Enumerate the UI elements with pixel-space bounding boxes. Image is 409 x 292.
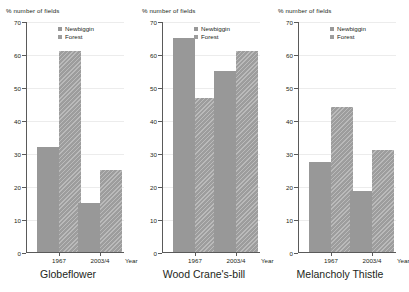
y-axis-line xyxy=(298,22,299,253)
y-tick-label: 30 xyxy=(14,151,21,158)
y-tick-label: 70 xyxy=(286,19,293,26)
y-tick-mark xyxy=(158,220,162,221)
y-tick-mark xyxy=(22,253,26,254)
y-tick-mark xyxy=(158,22,162,23)
y-tick-label: 70 xyxy=(150,19,157,26)
y-tick-mark xyxy=(294,55,298,56)
gridline xyxy=(299,22,396,23)
y-tick-label: 50 xyxy=(286,85,293,92)
legend-item: Forest xyxy=(58,34,94,40)
y-tick-mark xyxy=(294,154,298,155)
y-tick-mark xyxy=(158,154,162,155)
legend: NewbigginForest xyxy=(330,26,366,40)
legend: NewbigginForest xyxy=(58,26,94,40)
y-tick-mark xyxy=(22,88,26,89)
legend-label: Newbiggin xyxy=(337,26,366,32)
y-tick-mark xyxy=(294,187,298,188)
legend-label: Newbiggin xyxy=(65,26,94,32)
y-tick-mark xyxy=(158,88,162,89)
y-axis-title: % number of fields xyxy=(6,7,59,14)
bar xyxy=(214,71,236,253)
y-tick-mark xyxy=(22,22,26,23)
plot-area: 706050403020100 19672003/4 Year xyxy=(162,22,260,253)
y-tick-mark xyxy=(22,187,26,188)
y-tick-label: 50 xyxy=(150,85,157,92)
y-tick-mark xyxy=(294,22,298,23)
panel-title: Globeflower xyxy=(0,268,136,280)
bar xyxy=(350,191,372,252)
x-axis-line xyxy=(298,252,396,253)
bar xyxy=(173,38,195,253)
y-tick-label: 40 xyxy=(14,118,21,125)
chart-panel-wood-cranes-bill: % number of fields 706050403020100 19672… xyxy=(136,0,272,292)
x-tick-mark xyxy=(331,253,332,256)
panel-title: Wood Crane's-bill xyxy=(136,268,272,280)
y-axis-title: % number of fields xyxy=(278,7,331,14)
chart-panel-globeflower: % number of fields 706050403020100 19672… xyxy=(0,0,136,292)
legend-item: Newbiggin xyxy=(58,26,94,32)
x-tick-label: 2003/4 xyxy=(91,257,110,264)
gridline xyxy=(163,22,260,23)
legend-item: Forest xyxy=(194,34,230,40)
y-tick-label: 0 xyxy=(290,250,293,257)
x-tick-mark xyxy=(372,253,373,256)
y-tick-label: 30 xyxy=(150,151,157,158)
y-tick-label: 70 xyxy=(14,19,21,26)
x-tick-mark xyxy=(236,253,237,256)
x-axis-line xyxy=(162,252,260,253)
x-tick-label: 1967 xyxy=(324,257,338,264)
y-tick-label: 60 xyxy=(14,52,21,59)
y-tick-label: 40 xyxy=(150,118,157,125)
y-tick-mark xyxy=(158,253,162,254)
y-axis-line xyxy=(26,22,27,253)
legend-item: Forest xyxy=(330,34,366,40)
y-axis-title: % number of fields xyxy=(142,7,195,14)
x-tick-label: 2003/4 xyxy=(363,257,382,264)
x-tick-label: 2003/4 xyxy=(227,257,246,264)
panel-title: Melancholy Thistle xyxy=(272,268,408,280)
gridline xyxy=(27,22,124,23)
hatched-square-icon xyxy=(194,35,198,39)
gridline xyxy=(299,55,396,56)
y-tick-label: 0 xyxy=(154,250,157,257)
legend-label: Forest xyxy=(337,34,355,40)
bar xyxy=(236,51,258,252)
bar xyxy=(37,147,59,252)
y-tick-mark xyxy=(294,88,298,89)
legend-label: Forest xyxy=(201,34,219,40)
y-tick-mark xyxy=(22,154,26,155)
y-tick-label: 60 xyxy=(150,52,157,59)
y-tick-mark xyxy=(158,121,162,122)
solid-square-icon xyxy=(194,27,198,31)
legend-label: Forest xyxy=(65,34,83,40)
x-tick-label: 1967 xyxy=(52,257,66,264)
y-tick-mark xyxy=(22,121,26,122)
y-tick-mark xyxy=(22,55,26,56)
y-tick-mark xyxy=(294,121,298,122)
legend-item: Newbiggin xyxy=(194,26,230,32)
y-tick-mark xyxy=(158,55,162,56)
bar xyxy=(78,203,100,252)
y-tick-label: 50 xyxy=(14,85,21,92)
plot-area: 706050403020100 19672003/4 Year xyxy=(26,22,124,253)
hatched-square-icon xyxy=(330,35,334,39)
y-tick-label: 10 xyxy=(14,217,21,224)
y-tick-label: 10 xyxy=(150,217,157,224)
plot-area: 706050403020100 19672003/4 Year xyxy=(298,22,396,253)
y-tick-mark xyxy=(294,253,298,254)
x-tick-label: 1967 xyxy=(188,257,202,264)
x-tick-mark xyxy=(59,253,60,256)
y-tick-label: 40 xyxy=(286,118,293,125)
legend-label: Newbiggin xyxy=(201,26,230,32)
y-tick-mark xyxy=(22,220,26,221)
y-tick-label: 20 xyxy=(150,184,157,191)
hatched-square-icon xyxy=(58,35,62,39)
y-tick-label: 60 xyxy=(286,52,293,59)
legend-item: Newbiggin xyxy=(330,26,366,32)
bar xyxy=(372,150,394,252)
gridline xyxy=(299,88,396,89)
y-tick-mark xyxy=(294,220,298,221)
bar xyxy=(309,162,331,252)
x-tick-mark xyxy=(195,253,196,256)
